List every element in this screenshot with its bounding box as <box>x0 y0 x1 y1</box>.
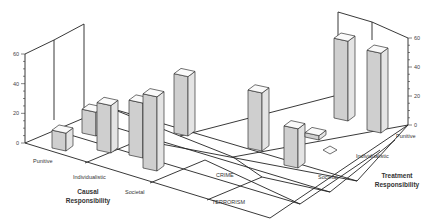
treatment-label-individualistic: Individualistic <box>356 153 389 159</box>
treatment-title-1: Treatment <box>381 172 413 179</box>
bar-side-face <box>381 48 388 133</box>
left-tick-label: 0 <box>16 140 19 146</box>
left-tick-label: 20 <box>13 110 19 116</box>
bar-front-face <box>143 94 157 171</box>
bar-front-face <box>334 38 348 121</box>
bar-crime-individualistic-front <box>97 97 118 153</box>
bar-front-face <box>284 126 298 168</box>
bar-side-face <box>348 36 355 121</box>
left-tick-label: 60 <box>13 51 19 57</box>
treatment-title-2: Responsibility <box>375 181 420 189</box>
bar-terrorism-punitive-2 <box>367 45 388 133</box>
bar-terrorism-individualistic-zero <box>323 146 337 154</box>
bar-front-face <box>248 90 262 151</box>
right-tick-label: 20 <box>414 93 420 99</box>
bar-side-face <box>111 100 118 153</box>
bar-front-face <box>129 100 143 158</box>
causal-label-societal: Societal <box>125 189 145 195</box>
floor-grid-line <box>180 136 233 157</box>
bar-front-face <box>82 109 96 136</box>
bar-terrorism-small <box>305 127 326 140</box>
panel-label-crime: CRIME <box>216 172 234 178</box>
bar-side-face <box>188 71 195 136</box>
bar-terrorism-societal-1 <box>248 85 269 151</box>
bar-front-face <box>174 74 188 136</box>
chart-frame: 02040600204060 <box>13 12 420 146</box>
3d-bar-chart: 02040600204060 Punitive Individualistic … <box>0 0 432 220</box>
panel-label-terrorism: TERRORISM <box>212 199 245 205</box>
treatment-label-punitive: Punitive <box>396 133 416 139</box>
bar-terrorism-punitive-1 <box>334 33 355 121</box>
causal-title-1: Causal <box>77 188 99 195</box>
left-tick-label: 40 <box>13 81 19 87</box>
bar-side-face <box>157 92 164 171</box>
bar-side-face <box>298 124 305 168</box>
causal-label-individualistic: Individualistic <box>73 174 106 180</box>
bar-front-face <box>97 103 111 153</box>
causal-label-punitive: Punitive <box>33 158 53 164</box>
causal-title-2: Responsibility <box>66 197 111 205</box>
right-tick-label: 40 <box>414 64 420 70</box>
bar-crime-societal-front <box>143 89 164 171</box>
right-tick-label: 0 <box>414 122 417 128</box>
right-tick-label: 60 <box>414 35 420 41</box>
left-back-wall <box>25 24 84 118</box>
treatment-label-societal: Societal <box>318 174 338 180</box>
bar-crime-punitive <box>52 125 73 151</box>
bars <box>52 33 388 171</box>
bar-side-face <box>262 88 269 151</box>
bar-front-face <box>52 130 66 151</box>
bar-terrorism-societal-2 <box>284 121 305 168</box>
bar-front-face <box>367 50 381 133</box>
floor-grid-line <box>207 177 262 200</box>
bar-crime-societal-mid <box>174 68 195 136</box>
labels: Punitive Individualistic Societal Causal… <box>33 133 420 205</box>
